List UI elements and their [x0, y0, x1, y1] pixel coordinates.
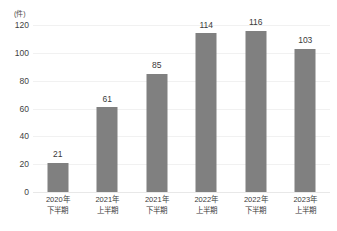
x-axis-tick-label: 2021年上半期: [83, 195, 133, 217]
bar-group: 21: [33, 25, 83, 192]
bar-group: 85: [132, 25, 182, 192]
y-axis-unit-label: (件): [14, 8, 26, 18]
bar[interactable]: [97, 107, 118, 192]
y-axis-tick-label: 0: [3, 188, 29, 197]
x-axis-tick-label: 2021年下半期: [132, 195, 182, 217]
gridline-0: [33, 192, 330, 193]
x-axis-tick-line: 2020年: [33, 195, 83, 206]
x-axis-tick-line: 上半期: [83, 206, 133, 217]
bar-group: 116: [231, 25, 281, 192]
y-axis-tick-label: 80: [3, 76, 29, 85]
bar-value-label: 114: [199, 21, 213, 30]
bar-value-label: 21: [53, 150, 62, 159]
y-axis-tick-label: 20: [3, 160, 29, 169]
bar-group: 61: [83, 25, 133, 192]
bar-group: 114: [182, 25, 232, 192]
x-axis-tick-line: 2021年: [132, 195, 182, 206]
bar-value-label: 103: [298, 36, 312, 45]
x-axis-tick-line: 上半期: [281, 206, 331, 217]
x-axis-tick-label: 2020年下半期: [33, 195, 83, 217]
bar-value-label: 61: [103, 95, 112, 104]
x-axis-tick-label: 2023年上半期: [281, 195, 331, 217]
x-axis-tick-line: 下半期: [132, 206, 182, 217]
bar[interactable]: [245, 31, 266, 192]
bar-value-label: 116: [249, 18, 263, 27]
y-axis: 020406080100120: [0, 25, 29, 192]
y-axis-tick-label: 40: [3, 132, 29, 141]
y-axis-tick-label: 120: [3, 21, 29, 30]
x-axis-tick-line: 2022年: [182, 195, 232, 206]
bar[interactable]: [295, 49, 316, 192]
x-axis-tick-line: 上半期: [182, 206, 232, 217]
x-axis-tick-line: 下半期: [231, 206, 281, 217]
bar-value-label: 85: [152, 61, 161, 70]
bar-chart: (件) 020406080100120 216185114116103 2020…: [0, 0, 337, 231]
x-axis-tick-label: 2022年下半期: [231, 195, 281, 217]
y-axis-tick-label: 100: [3, 49, 29, 58]
x-axis-tick-line: 2021年: [83, 195, 133, 206]
bars-layer: 216185114116103: [33, 25, 330, 192]
bar[interactable]: [146, 74, 167, 192]
y-axis-tick-label: 60: [3, 104, 29, 113]
x-axis-tick-line: 下半期: [33, 206, 83, 217]
x-axis-tick-line: 2022年: [231, 195, 281, 206]
x-axis-tick-line: 2023年: [281, 195, 331, 206]
bar-group: 103: [281, 25, 331, 192]
x-axis: 2020年下半期2021年上半期2021年下半期2022年上半期2022年下半期…: [33, 195, 330, 229]
x-axis-tick-label: 2022年上半期: [182, 195, 232, 217]
bar[interactable]: [196, 33, 217, 192]
bar[interactable]: [47, 163, 68, 192]
